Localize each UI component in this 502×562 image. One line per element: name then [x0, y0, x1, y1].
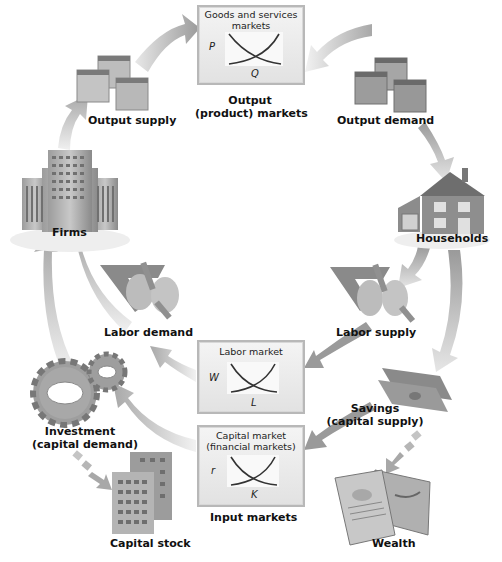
investment-label-line1: Investment — [40, 425, 120, 438]
goods-market-title-line2: markets — [199, 20, 303, 31]
output-markets-label-line1: Output — [215, 94, 285, 107]
capital-market-title-line1: Capital market — [199, 430, 303, 441]
arrow-investment-to-firms — [34, 236, 74, 372]
labor-y-axis-label: W — [209, 372, 219, 383]
investment-label-line2: (capital demand) — [30, 438, 140, 451]
capital-y-axis-label: r — [211, 465, 215, 476]
wealth-certificates-icon — [335, 470, 430, 545]
goods-x-axis-label: Q — [251, 68, 259, 79]
labor-market-box: Labor market W L — [197, 340, 305, 414]
households-label: Households — [416, 232, 488, 245]
arrow-households-to-savings — [432, 250, 462, 372]
savings-label-line1: Savings — [340, 402, 410, 415]
labor-x-axis-label: L — [251, 397, 257, 408]
capital-market-box: Capital market (financial markets) r K — [197, 425, 305, 507]
arrow-savings-to-wealth — [386, 430, 422, 474]
arrow-investment-to-capital-stock — [72, 450, 112, 490]
arrow-firms-to-output-supply — [58, 95, 88, 150]
arrow-output-demand-to-households — [418, 122, 454, 182]
arrow-market-to-output-demand — [305, 24, 372, 72]
firms-label: Firms — [52, 226, 87, 239]
investment-gears-icon — [33, 354, 125, 425]
output-supply-icon — [77, 56, 148, 110]
wealth-label: Wealth — [372, 537, 415, 550]
arrow-output-supply-to-market — [135, 14, 200, 72]
savings-label-line2: (capital supply) — [325, 415, 425, 428]
input-markets-label: Input markets — [210, 511, 290, 524]
arrow-labor-market-to-labor-demand — [150, 346, 196, 382]
output-markets-label-line2: (product) markets — [195, 107, 305, 120]
capital-market-title-line2: (financial markets) — [199, 441, 303, 452]
goods-supply-demand-plot — [225, 32, 283, 66]
arrow-households-to-labor-supply — [398, 246, 430, 288]
labor-supply-label: Labor supply — [336, 326, 416, 339]
circular-flow-diagram: Goods and services markets P Q Labor mar… — [0, 0, 502, 562]
labor-market-title: Labor market — [199, 346, 303, 357]
capital-supply-demand-plot — [227, 455, 279, 487]
goods-market-title-line1: Goods and services — [199, 9, 303, 20]
goods-y-axis-label: P — [209, 41, 215, 52]
capital-x-axis-label: K — [251, 489, 258, 500]
output-demand-label: Output demand — [337, 114, 434, 127]
capital-stock-buildings-icon — [112, 452, 172, 534]
labor-supply-demand-plot — [227, 362, 279, 394]
capital-stock-label: Capital stock — [110, 537, 191, 550]
labor-demand-label: Labor demand — [104, 326, 193, 339]
output-supply-label: Output supply — [88, 114, 176, 127]
goods-services-market-box: Goods and services markets P Q — [197, 5, 305, 85]
output-demand-icon — [355, 58, 426, 112]
